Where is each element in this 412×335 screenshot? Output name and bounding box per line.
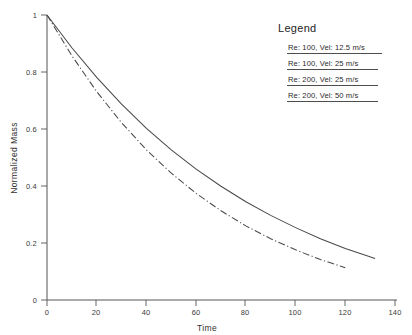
y-tick-label-1: 1: [33, 11, 37, 20]
legend: Legend Re: 100, Vel: 12.5 m/s Re: 100, V…: [278, 22, 382, 102]
x-axis: 0 20 40 60 80 100 120 140 Time: [45, 300, 402, 333]
y-axis-ticks: [41, 15, 47, 300]
legend-entry-label-3: Re: 200, Vel: 25 m/s: [288, 75, 358, 84]
legend-entry-label-4: Re: 200, Vel: 50 m/s: [288, 91, 358, 100]
legend-entry: Re: 200, Vel: 50 m/s: [287, 91, 378, 102]
legend-entry-label-1: Re: 100, Vel: 12.5 m/s: [288, 43, 365, 52]
chart-canvas: 0 0.2 0.4 0.6 0.8 1 Normalized Mass 0 20…: [0, 0, 412, 335]
legend-entry: Re: 200, Vel: 25 m/s: [287, 75, 378, 86]
y-tick-label-0: 0: [33, 296, 37, 305]
x-tick-label-60: 60: [192, 308, 201, 317]
x-tick-label-0: 0: [45, 308, 49, 317]
legend-entry: Re: 100, Vel: 25 m/s: [287, 59, 378, 70]
y-tick-label-0.6: 0.6: [26, 125, 37, 134]
chart-figure: 0 0.2 0.4 0.6 0.8 1 Normalized Mass 0 20…: [0, 0, 412, 335]
x-tick-label-120: 120: [338, 308, 351, 317]
legend-title: Legend: [278, 22, 317, 34]
y-axis: 0 0.2 0.4 0.6 0.8 1 Normalized Mass: [9, 11, 47, 305]
x-tick-label-100: 100: [288, 308, 301, 317]
x-tick-label-40: 40: [142, 308, 151, 317]
data-series-layer: [47, 15, 375, 268]
y-tick-label-0.4: 0.4: [26, 182, 37, 191]
y-tick-label-0.2: 0.2: [26, 239, 37, 248]
x-axis-ticks: [47, 300, 395, 306]
legend-entry-label-2: Re: 100, Vel: 25 m/s: [288, 59, 358, 68]
x-tick-label-20: 20: [92, 308, 101, 317]
x-tick-label-140: 140: [388, 308, 401, 317]
y-axis-title: Normalized Mass: [9, 122, 19, 194]
y-tick-label-0.8: 0.8: [26, 68, 37, 77]
x-axis-title: Time: [197, 323, 217, 333]
x-tick-label-80: 80: [241, 308, 250, 317]
legend-entry: Re: 100, Vel: 12.5 m/s: [287, 43, 382, 54]
